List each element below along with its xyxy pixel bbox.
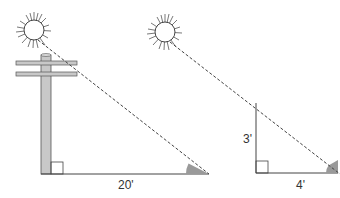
sun-ray-dashed — [38, 40, 209, 174]
similar-triangles-diagram — [0, 0, 340, 198]
telephone-pole — [16, 54, 77, 175]
sun-icon — [16, 12, 51, 48]
pole-crossbar — [16, 72, 77, 76]
right-angle-marker — [51, 162, 63, 174]
sun-icon — [147, 14, 182, 50]
pole-shadow-label: 20' — [118, 179, 134, 191]
sun-ray-dashed — [170, 42, 340, 174]
right-angle-marker — [256, 161, 268, 173]
stick-shadow-label: 4' — [296, 179, 305, 191]
stick-height-label: 3' — [243, 133, 252, 145]
